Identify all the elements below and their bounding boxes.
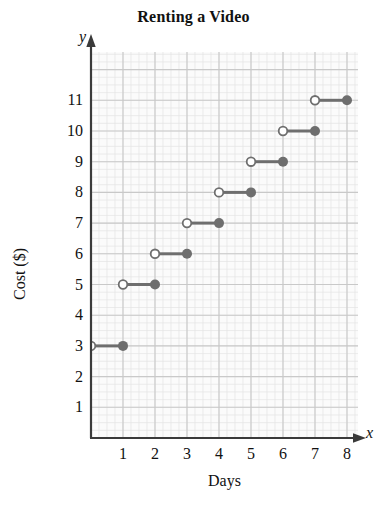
closed-endpoint-marker	[342, 95, 352, 105]
y-axis-tick-label: 6	[53, 246, 83, 262]
step-series	[91, 95, 352, 351]
y-axis-tick-label: 1	[53, 399, 83, 415]
x-axis-tick-label: 5	[239, 446, 263, 462]
y-axis-letter: y	[79, 28, 86, 46]
y-axis-tick-label: 7	[53, 215, 83, 231]
open-endpoint-marker	[151, 250, 160, 259]
chart-container: Renting a Video y x 1234567891011 123456…	[0, 0, 387, 521]
y-axis-tick-label: 4	[53, 307, 83, 323]
x-axis-letter: x	[366, 424, 373, 442]
chart-title: Renting a Video	[0, 8, 387, 26]
closed-endpoint-marker	[310, 126, 320, 136]
open-endpoint-marker	[279, 127, 288, 136]
y-axis-arrow	[86, 34, 95, 47]
plot-area	[91, 52, 358, 438]
closed-endpoint-marker	[214, 218, 224, 228]
y-axis-title: Cost ($)	[11, 224, 29, 324]
y-axis-tick-label: 11	[53, 92, 83, 108]
y-axis-tick-label: 9	[53, 154, 83, 170]
x-axis-tick-label: 8	[335, 446, 359, 462]
x-axis-tick-label: 4	[207, 446, 231, 462]
closed-endpoint-marker	[246, 187, 256, 197]
open-endpoint-marker	[119, 280, 128, 289]
y-axis-tick-label: 2	[53, 369, 83, 385]
y-axis-tick-label: 3	[53, 338, 83, 354]
open-endpoint-marker	[247, 157, 256, 166]
closed-endpoint-marker	[182, 249, 192, 259]
x-axis-tick-label: 7	[303, 446, 327, 462]
x-axis-tick-label: 1	[111, 446, 135, 462]
y-axis-tick-label: 8	[53, 184, 83, 200]
y-axis-tick-label: 5	[53, 277, 83, 293]
x-axis-tick-label: 2	[143, 446, 167, 462]
y-axis-tick-label: 10	[53, 123, 83, 139]
open-endpoint-marker	[91, 342, 95, 351]
x-axis-tick-label: 6	[271, 446, 295, 462]
x-axis-tick-label: 3	[175, 446, 199, 462]
x-axis-title: Days	[91, 472, 358, 490]
closed-endpoint-marker	[118, 341, 128, 351]
open-endpoint-marker	[215, 188, 224, 197]
open-endpoint-marker	[311, 96, 320, 105]
closed-endpoint-marker	[278, 157, 288, 167]
data-layer	[91, 52, 358, 438]
closed-endpoint-marker	[150, 280, 160, 290]
open-endpoint-marker	[183, 219, 192, 228]
